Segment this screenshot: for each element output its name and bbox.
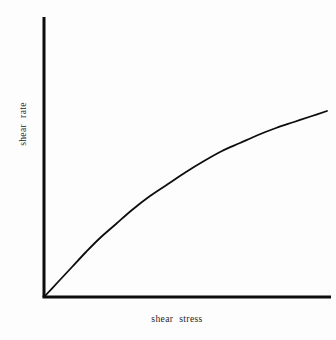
x-axis-line [43, 296, 332, 299]
y-axis-line [43, 17, 46, 297]
figure-root: shear rate shear stress [0, 0, 336, 340]
x-axis-label: shear stress [0, 314, 336, 324]
plot-canvas [0, 0, 336, 340]
y-axis-label: shear rate [18, 101, 28, 147]
